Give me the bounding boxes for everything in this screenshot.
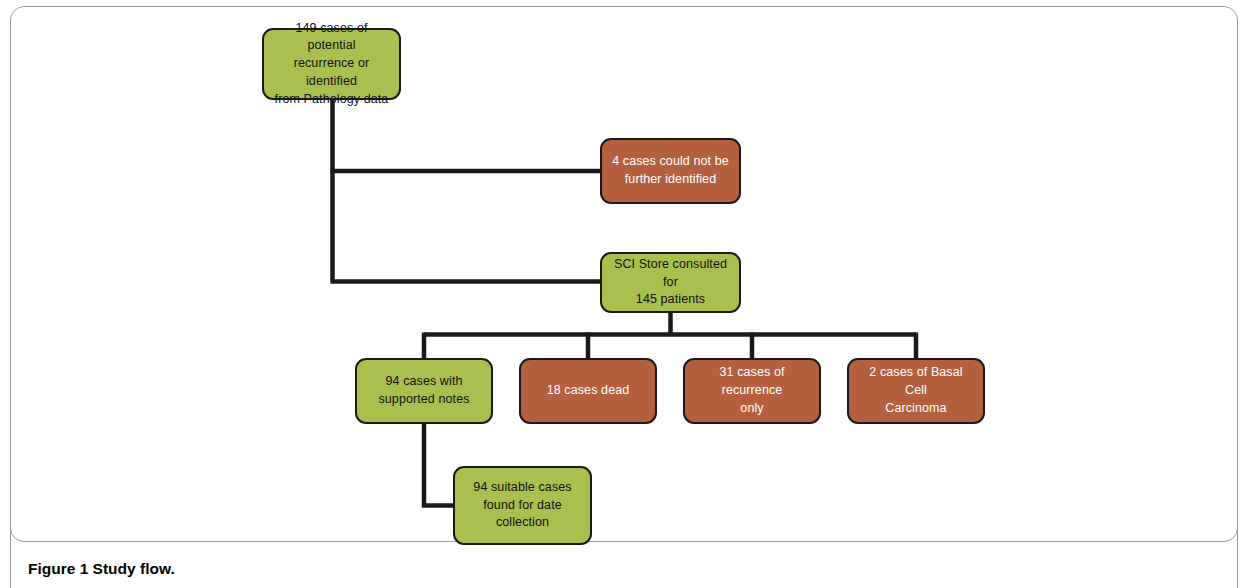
node-supported-notes-line2: supported notes <box>365 391 483 409</box>
node-potential-cases-line2: recurrence or identified <box>272 55 391 91</box>
node-not-identified-line1: 4 cases could not be <box>610 153 731 171</box>
node-recurrence-only-line1: 31 cases of recurrence <box>693 364 811 400</box>
node-not-identified-line2: further identified <box>610 171 731 189</box>
figure-page: 149 cases of potential recurrence or ide… <box>0 0 1247 588</box>
node-sci-store-line2: 145 patients <box>610 291 731 309</box>
node-potential-cases: 149 cases of potential recurrence or ide… <box>262 28 401 100</box>
node-potential-cases-line1: 149 cases of potential <box>272 20 391 56</box>
flowchart-canvas: 149 cases of potential recurrence or ide… <box>0 0 1247 548</box>
node-basal-cell-line2: Carcinoma <box>857 400 975 418</box>
figure-caption-text: Study flow. <box>93 560 175 577</box>
node-dead-line1: 18 cases dead <box>529 382 647 400</box>
node-suitable-cases-line2: found for date <box>463 497 582 515</box>
node-supported-notes-line1: 94 cases with <box>365 373 483 391</box>
node-suitable-cases-line3: collection <box>463 514 582 532</box>
node-suitable-cases-line1: 94 suitable cases <box>463 479 582 497</box>
node-basal-cell-line1: 2 cases of Basal Cell <box>857 364 975 400</box>
node-supported-notes: 94 cases with supported notes <box>355 358 493 424</box>
node-not-identified: 4 cases could not be further identified <box>600 138 741 204</box>
node-sci-store-line1: SCI Store consulted for <box>610 256 731 292</box>
node-potential-cases-line3: from Pathology data <box>272 91 391 109</box>
figure-caption: Figure 1 Study flow. <box>28 560 175 578</box>
node-recurrence-only: 31 cases of recurrence only <box>683 358 821 424</box>
node-sci-store: SCI Store consulted for 145 patients <box>600 252 741 313</box>
node-recurrence-only-line2: only <box>693 400 811 418</box>
figure-caption-label: Figure 1 <box>28 560 88 577</box>
edge-to-suitable-cases <box>424 424 453 506</box>
node-basal-cell: 2 cases of Basal Cell Carcinoma <box>847 358 985 424</box>
node-suitable-cases: 94 suitable cases found for date collect… <box>453 466 592 545</box>
node-dead: 18 cases dead <box>519 358 657 424</box>
